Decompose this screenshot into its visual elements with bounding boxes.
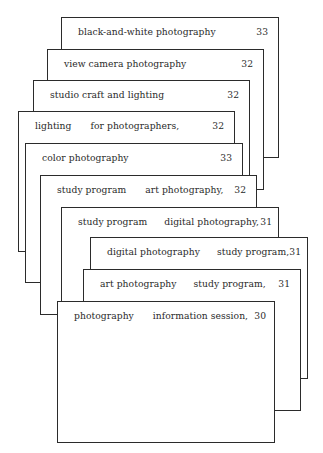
card-subject-secondary: information session, (153, 310, 248, 322)
card-count: 32 (212, 120, 224, 132)
card-subject-secondary: for photographers, (91, 120, 180, 132)
card-count: 31 (260, 216, 272, 228)
card-subject-secondary: digital photography, (164, 216, 259, 228)
card-count: 33 (220, 152, 232, 164)
card-subject: art photography study program, (100, 278, 288, 290)
card-subject-primary: study program (57, 184, 126, 196)
card-subject-secondary: study program, (194, 278, 266, 290)
card-subject-primary: photography (74, 310, 134, 322)
index-card-front[interactable]: photography information session, 30 (57, 301, 275, 443)
card-subject: study program digital photography, (78, 216, 266, 228)
card-subject-primary: black-and-white photography (78, 26, 216, 38)
card-subject-primary: digital photography (107, 246, 200, 258)
card-count: 32 (227, 89, 239, 101)
card-subject: digital photography study program, (107, 246, 295, 258)
card-subject-secondary: study program, (217, 246, 289, 258)
card-subject-secondary: art photography, (145, 184, 223, 196)
card-count: 32 (241, 58, 253, 70)
card-count: 32 (234, 184, 246, 196)
card-subject: study program art photography, (57, 184, 244, 196)
card-subject: black-and-white photography (78, 26, 266, 38)
card-subject-primary: color photography (42, 152, 129, 164)
card-count: 31 (278, 278, 290, 290)
card-subject: view camera photography (64, 58, 251, 70)
card-subject: photography information session, (74, 310, 262, 322)
index-card-stack: black-and-white photography 33 view came… (0, 0, 323, 453)
card-subject: lighting for photographers, (35, 120, 222, 132)
card-subject-primary: studio craft and lighting (50, 89, 164, 101)
card-subject-primary: lighting (35, 120, 72, 132)
card-count: 30 (254, 310, 266, 322)
card-subject: studio craft and lighting (50, 89, 237, 101)
card-count: 31 (289, 246, 301, 258)
card-subject-primary: art photography (100, 278, 177, 290)
card-count: 33 (256, 26, 268, 38)
card-subject-primary: study program (78, 216, 147, 228)
card-subject: color photography (42, 152, 230, 164)
card-subject-primary: view camera photography (64, 58, 186, 70)
